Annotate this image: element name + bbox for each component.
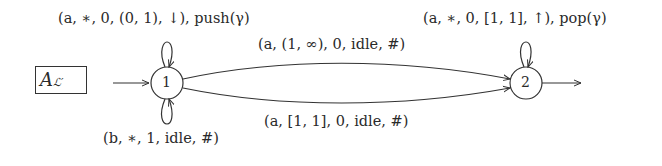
state-1-label: 1 bbox=[162, 74, 171, 90]
upper-arc bbox=[183, 63, 510, 79]
transition-label-lower-arc: (a, [1, 1], 0, idle, #) bbox=[264, 113, 408, 129]
loop-top-1 bbox=[162, 42, 172, 67]
transition-label-loop-bottom-1: (b, ∗, 1, idle, #) bbox=[103, 130, 219, 146]
transition-label-upper-arc: (a, (1, ∞), 0, idle, #) bbox=[258, 36, 405, 52]
automaton-name: Aℒ′ bbox=[40, 69, 64, 90]
automaton-name-box: Aℒ′ bbox=[35, 66, 87, 94]
loop-top-2 bbox=[520, 42, 531, 67]
loop-bottom-1 bbox=[161, 99, 172, 124]
transition-label-loop-top-2: (a, ∗, 0, [1, 1], ↑), pop(γ) bbox=[423, 10, 607, 26]
lower-arc bbox=[183, 88, 510, 103]
state-2-label: 2 bbox=[521, 74, 530, 90]
transition-label-loop-top-1: (a, ∗, 0, (0, 1), ↓), push(γ) bbox=[58, 10, 250, 26]
